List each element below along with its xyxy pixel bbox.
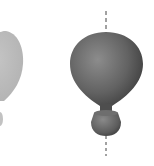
render-scene [0,0,154,166]
shaded-balloon [70,32,143,136]
faded-balloon [0,31,23,126]
